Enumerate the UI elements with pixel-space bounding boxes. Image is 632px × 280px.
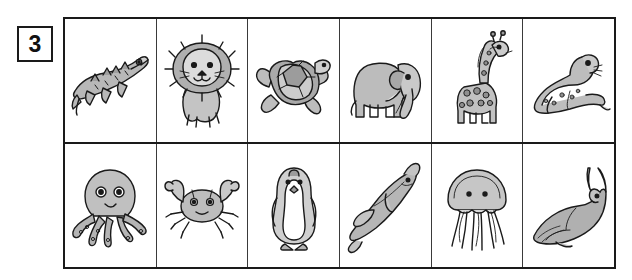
crab-icon xyxy=(159,154,245,258)
worksheet-page: 3 crocodile xyxy=(0,0,632,280)
octopus-icon xyxy=(67,154,153,258)
grid-cell-lion[interactable]: lion xyxy=(157,19,249,142)
grid-cell-elephant[interactable]: elephant xyxy=(340,19,432,142)
grid-cell-penguin[interactable]: penguin xyxy=(248,144,340,267)
penguin-icon xyxy=(251,154,337,258)
grid-cell-turtle[interactable]: turtle xyxy=(248,19,340,142)
grid-cell-whale[interactable]: whale xyxy=(523,144,614,267)
seal-icon xyxy=(526,29,612,133)
grid-cell-jellyfish[interactable]: jellyfish xyxy=(432,144,524,267)
turtle-icon xyxy=(251,29,337,133)
sea-animals-row: octopus xyxy=(65,144,614,267)
grid-cell-octopus[interactable]: octopus xyxy=(65,144,157,267)
grid-cell-dolphin[interactable]: dolphin xyxy=(340,144,432,267)
crocodile-icon xyxy=(67,29,153,133)
grid-cell-giraffe[interactable]: giraffe xyxy=(432,19,524,142)
dolphin-icon xyxy=(342,154,428,258)
grid-cell-crocodile[interactable]: crocodile xyxy=(65,19,157,142)
jellyfish-icon xyxy=(434,154,520,258)
elephant-icon xyxy=(342,29,428,133)
exercise-number: 3 xyxy=(17,26,53,62)
animals-grid: crocodile xyxy=(63,17,616,269)
grid-cell-seal[interactable]: seal xyxy=(523,19,614,142)
whale-icon xyxy=(526,154,612,258)
grid-cell-crab[interactable]: crab xyxy=(157,144,249,267)
lion-icon xyxy=(159,29,245,133)
land-animals-row: crocodile xyxy=(65,19,614,144)
giraffe-icon xyxy=(434,29,520,133)
